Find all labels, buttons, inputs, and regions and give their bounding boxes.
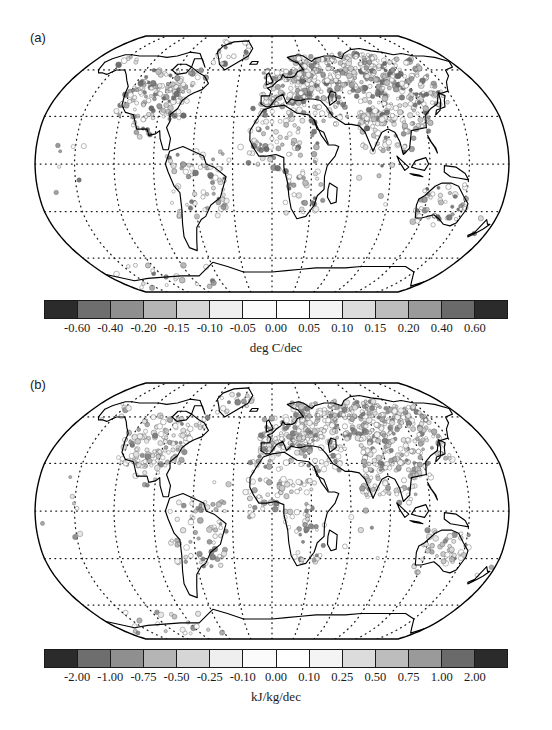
data-point-circle: [278, 135, 283, 140]
data-point-circle: [414, 493, 417, 496]
data-point-circle: [433, 535, 439, 541]
data-point-circle: [396, 465, 401, 470]
data-point-circle: [212, 541, 215, 544]
colorbar-cell: [177, 650, 210, 667]
data-point-circle: [180, 627, 185, 632]
data-point-circle: [134, 60, 138, 64]
data-point-circle: [164, 436, 168, 440]
data-point-circle: [358, 99, 363, 104]
data-point-circle: [418, 442, 423, 447]
colorbar-tick-label: -0.15: [164, 321, 190, 336]
data-point-circle: [309, 86, 314, 91]
colorbar-cell: [243, 301, 276, 318]
colorbar-cell: [376, 301, 409, 318]
data-point-circle: [192, 192, 197, 197]
data-point-circle: [403, 60, 408, 65]
data-point-circle: [416, 449, 421, 454]
data-point-circle: [314, 433, 318, 437]
data-point-circle: [415, 92, 419, 96]
data-point-circle: [150, 464, 153, 467]
data-point-circle: [381, 164, 384, 167]
data-point-circle: [270, 136, 274, 140]
data-point-circle: [149, 86, 153, 90]
data-point-circle: [317, 104, 322, 109]
data-point-circle: [302, 200, 307, 205]
data-point-circle: [154, 465, 160, 471]
data-point-circle: [322, 119, 326, 123]
data-point-circle: [395, 405, 398, 408]
data-point-circle: [243, 489, 249, 495]
data-point-circle: [175, 517, 180, 522]
data-point-circle: [342, 544, 347, 549]
data-point-circle: [459, 207, 463, 211]
data-point-circle: [188, 426, 194, 432]
colorbar-a-unit: deg C/dec: [44, 340, 508, 356]
figure-root: (a) -0.60-0.40-0.20-0.15-0.10-0.050.000.…: [0, 0, 552, 730]
data-point-circle: [316, 413, 319, 416]
data-point-circle: [383, 465, 388, 470]
data-point-circle: [428, 91, 433, 96]
data-point-circle: [301, 540, 304, 543]
colorbar-tick-label: -0.05: [230, 321, 256, 336]
data-point-circle: [332, 429, 336, 433]
data-point-circle: [384, 423, 387, 426]
data-point-circle: [167, 451, 171, 455]
panel-a-map: [22, 28, 522, 300]
data-point-circle: [454, 217, 457, 220]
data-point-circle: [241, 399, 246, 404]
data-point-circle: [403, 443, 408, 448]
colorbar-cell: [111, 650, 144, 667]
data-point-circle: [430, 85, 433, 88]
data-point-circle: [77, 178, 81, 182]
colorbar-tick-label: 1.00: [431, 670, 453, 685]
data-point-circle: [385, 485, 390, 490]
data-point-circle: [351, 410, 354, 413]
data-point-circle: [478, 216, 483, 221]
colorbar-cell: [210, 301, 243, 318]
data-point-circle: [199, 68, 204, 73]
data-point-circle: [183, 169, 188, 174]
data-point-circle: [361, 401, 365, 405]
data-point-circle: [289, 86, 293, 90]
data-point-circle: [336, 74, 341, 79]
colorbar-b: [44, 649, 508, 668]
data-point-circle: [178, 461, 181, 464]
data-point-circle: [144, 439, 149, 444]
data-point-circle: [286, 434, 291, 439]
data-point-circle: [394, 64, 398, 68]
data-point-circle: [370, 94, 374, 98]
data-point-circle: [390, 163, 395, 168]
data-point-circle: [189, 632, 192, 635]
data-point-circle: [380, 417, 385, 422]
data-point-circle: [247, 496, 252, 501]
data-point-circle: [312, 481, 317, 486]
data-point-circle: [345, 436, 350, 441]
data-point-circle: [266, 126, 270, 130]
data-point-circle: [420, 206, 424, 210]
colorbar-tick-label: -0.75: [130, 670, 156, 685]
data-point-circle: [266, 464, 272, 470]
data-point-circle: [270, 109, 274, 113]
data-point-circle: [158, 91, 163, 96]
data-point-circle: [344, 400, 349, 405]
data-point-circle: [373, 128, 377, 132]
data-point-circle: [346, 56, 350, 60]
data-point-circle: [181, 503, 186, 508]
data-point-circle: [194, 624, 199, 629]
data-point-circle: [258, 433, 263, 438]
data-point-circle: [389, 420, 394, 425]
data-point-circle: [314, 70, 318, 74]
data-point-circle: [143, 81, 146, 84]
data-point-circle: [319, 459, 324, 464]
data-point-circle: [321, 543, 325, 547]
data-point-circle: [275, 84, 280, 89]
data-point-circle: [213, 528, 218, 533]
colorbar-cell: [111, 301, 144, 318]
data-point-circle: [298, 91, 303, 96]
data-point-circle: [309, 118, 313, 122]
data-point-circle: [158, 450, 162, 454]
colorbar-tick-label: -0.10: [230, 670, 256, 685]
data-point-circle: [77, 531, 83, 537]
data-point-circle: [123, 610, 128, 615]
data-point-circle: [429, 196, 432, 199]
